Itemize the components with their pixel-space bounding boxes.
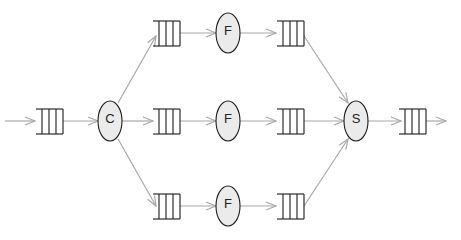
node-label: F (224, 196, 232, 211)
node-worker-1: F (216, 13, 240, 53)
pipeline-diagram: C F F F S (0, 0, 461, 240)
edge-c-q1 (118, 36, 156, 103)
edge-q1-s (304, 36, 348, 103)
node-worker-3: F (216, 186, 240, 226)
node-splitter: C (98, 101, 122, 141)
queue-worker2-out (277, 109, 304, 134)
node-label: S (352, 111, 361, 126)
queue-worker1-out (277, 21, 304, 46)
queue-worker3-out (277, 194, 304, 219)
queue-output (399, 109, 426, 134)
node-merger: S (344, 101, 368, 141)
queue-worker3-in (153, 194, 180, 219)
edge-q3-s (304, 139, 348, 206)
node-label: C (105, 111, 114, 126)
edge-c-q3 (118, 139, 156, 206)
node-label: F (224, 23, 232, 38)
node-worker-2: F (216, 101, 240, 141)
queue-input (36, 109, 63, 134)
queue-worker1-in (153, 21, 180, 46)
node-label: F (224, 111, 232, 126)
queue-worker2-in (153, 109, 180, 134)
